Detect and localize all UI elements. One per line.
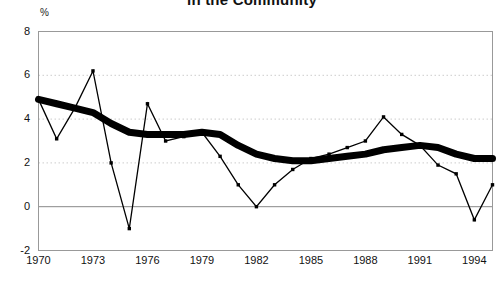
y-tick-4: 4 bbox=[8, 112, 30, 124]
data-point-marker bbox=[327, 152, 330, 155]
x-tick-1976: 1976 bbox=[124, 254, 170, 266]
data-point-marker bbox=[473, 218, 476, 221]
x-tick-1973: 1973 bbox=[70, 254, 116, 266]
data-point-marker bbox=[364, 139, 367, 142]
data-point-marker bbox=[146, 102, 149, 105]
series-trend-thick-line bbox=[39, 99, 493, 160]
x-tick-1985: 1985 bbox=[288, 254, 334, 266]
data-point-marker bbox=[109, 161, 112, 164]
data-point-marker bbox=[55, 137, 58, 140]
data-point-marker bbox=[291, 168, 294, 171]
data-point-marker bbox=[218, 155, 221, 158]
y-tick-0: 0 bbox=[8, 200, 30, 212]
y-tick-6: 6 bbox=[8, 68, 30, 80]
y-tick-2: 2 bbox=[8, 156, 30, 168]
data-point-marker bbox=[255, 205, 258, 208]
data-point-marker bbox=[200, 131, 203, 134]
data-point-marker bbox=[454, 172, 457, 175]
data-point-marker bbox=[382, 115, 385, 118]
data-point-marker bbox=[164, 139, 167, 142]
y-tick-8: 8 bbox=[8, 25, 30, 37]
data-point-marker bbox=[128, 227, 131, 230]
data-point-marker bbox=[37, 98, 40, 101]
x-tick-1982: 1982 bbox=[233, 254, 279, 266]
x-tick-1994: 1994 bbox=[451, 254, 497, 266]
plot-area bbox=[0, 0, 504, 285]
data-point-marker bbox=[346, 146, 349, 149]
chart-figure: in the Community % 86420-2 1970197319761… bbox=[0, 0, 504, 285]
x-tick-1979: 1979 bbox=[179, 254, 225, 266]
data-point-marker bbox=[418, 144, 421, 147]
data-point-marker bbox=[91, 69, 94, 72]
data-point-marker bbox=[182, 135, 185, 138]
data-point-marker bbox=[237, 183, 240, 186]
x-tick-1988: 1988 bbox=[342, 254, 388, 266]
x-tick-1970: 1970 bbox=[16, 254, 62, 266]
data-point-marker bbox=[309, 157, 312, 160]
x-tick-1991: 1991 bbox=[397, 254, 443, 266]
data-point-marker bbox=[400, 133, 403, 136]
data-point-marker bbox=[436, 163, 439, 166]
data-point-marker bbox=[491, 183, 494, 186]
data-point-marker bbox=[273, 183, 276, 186]
series-annual-rate-thin-line bbox=[39, 71, 493, 229]
data-point-marker bbox=[73, 106, 76, 109]
